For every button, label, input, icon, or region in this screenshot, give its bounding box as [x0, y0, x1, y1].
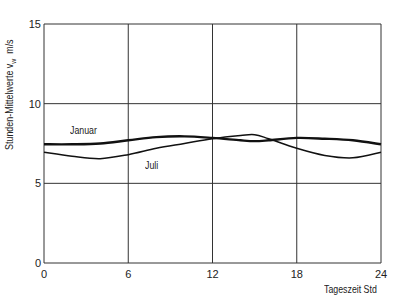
- svg-text:6: 6: [125, 268, 131, 280]
- svg-text:18: 18: [291, 268, 303, 280]
- svg-text:12: 12: [206, 268, 218, 280]
- svg-text:24: 24: [375, 268, 387, 280]
- chart-canvas: 06121824051015: [0, 0, 399, 307]
- x-axis-label: Tageszeit Std: [324, 283, 377, 295]
- svg-text:0: 0: [35, 257, 41, 269]
- series-label-januar: Januar: [70, 124, 97, 136]
- series-label-juli: Juli: [145, 159, 158, 171]
- svg-text:15: 15: [29, 18, 41, 30]
- svg-text:10: 10: [29, 98, 41, 110]
- y-axis-label: Stunden-Mittelwerte vw m/s: [3, 39, 18, 150]
- svg-text:0: 0: [41, 268, 47, 280]
- axis-tick-labels: 06121824051015: [29, 18, 387, 280]
- svg-text:5: 5: [35, 177, 41, 189]
